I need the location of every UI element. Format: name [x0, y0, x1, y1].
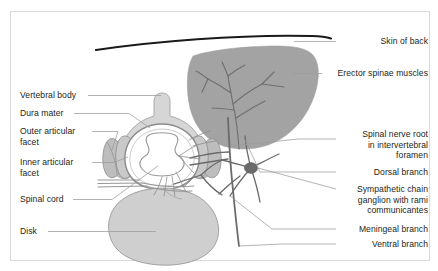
label-spinal-cord: Spinal cord: [20, 194, 64, 205]
label-vertebral-body: Vertebral body: [20, 90, 76, 101]
sympathetic-chain-ganglion-node: [244, 163, 257, 174]
erector-spinae-muscles-shape: [187, 46, 318, 149]
label-erector-spinae-muscles: Erector spinae muscles: [338, 68, 428, 79]
figure-page: Vertebral body Dura mater Outer articula…: [0, 0, 438, 271]
label-meningeal-branch: Meningeal branch: [359, 224, 428, 235]
leader-ventral-branch: [239, 244, 336, 246]
label-inner-articular-facet: Inner articular facet: [20, 157, 73, 178]
spinal-cord-shape: [140, 133, 184, 176]
label-dorsal-branch: Dorsal branch: [374, 167, 428, 178]
label-sympathetic-chain-ganglion: Sympathetic chain ganglion with rami com…: [357, 184, 428, 216]
label-disk: Disk: [20, 226, 37, 237]
disk-shape: [109, 188, 219, 265]
leader-sympathetic-ganglion: [258, 168, 336, 189]
label-dura-mater: Dura mater: [20, 108, 63, 119]
leader-meningeal-branch: [230, 196, 336, 229]
label-outer-articular-facet: Outer articular facet: [20, 126, 75, 147]
label-skin-of-back: Skin of back: [381, 36, 428, 47]
label-spinal-nerve-root: Spinal nerve root in intervertebral fora…: [362, 129, 428, 161]
label-ventral-branch: Ventral branch: [372, 239, 428, 250]
